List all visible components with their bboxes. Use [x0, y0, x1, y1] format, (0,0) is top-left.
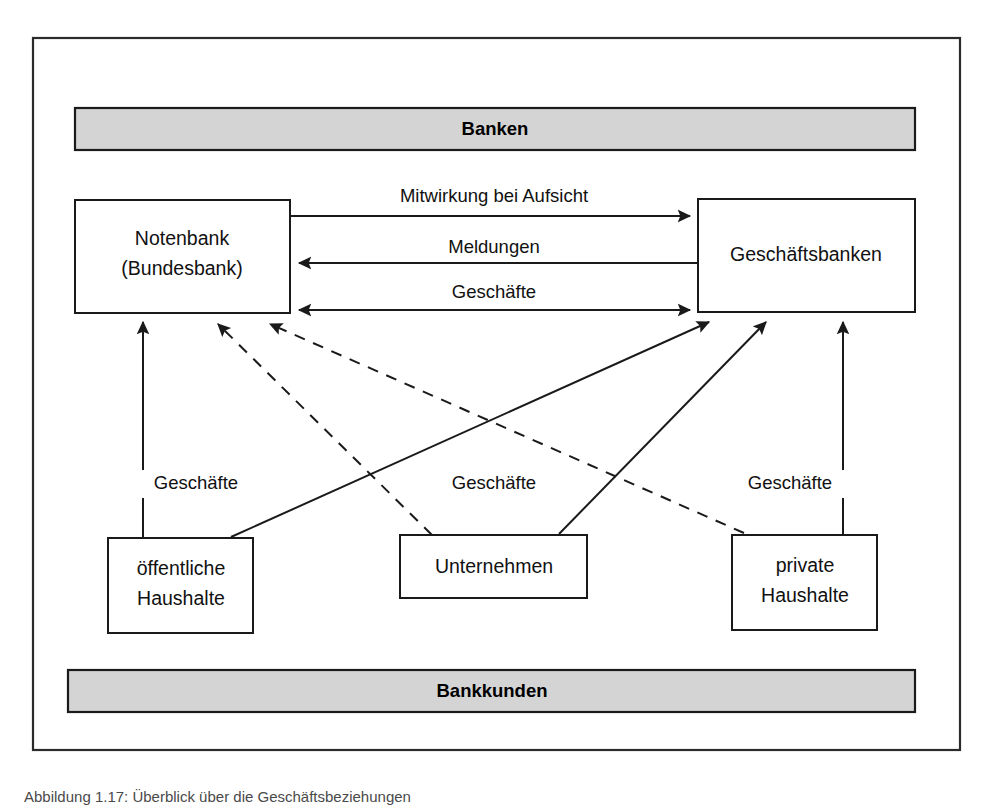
- band-bankkunden-label: Bankkunden: [436, 680, 547, 701]
- figure-caption: Abbildung 1.17: Überblick über die Gesch…: [24, 788, 411, 805]
- band-banken-label: Banken: [462, 118, 529, 139]
- edge-geschaefte-unternehmen-banken: [559, 322, 766, 534]
- edge-geschaefte-private-notenbank: [270, 324, 744, 533]
- node-unternehmen[interactable]: Unternehmen: [400, 535, 587, 598]
- node-oeffentliche-haushalte[interactable]: öffentliche Haushalte: [108, 538, 253, 633]
- node-private-haushalte-label-line1: private: [776, 554, 835, 576]
- business-relations-diagram: Banken Bankkunden Notenbank (Bundesbank)…: [0, 0, 985, 808]
- node-oeffentliche-haushalte-rect[interactable]: [108, 538, 253, 633]
- node-unternehmen-label: Unternehmen: [435, 555, 553, 577]
- node-oeffentliche-haushalte-label-line2: Haushalte: [137, 587, 225, 609]
- edge-geschaefte-unternehmen-notenbank: [218, 324, 432, 535]
- edge-label-geschaefte-oeffentliche: Geschäfte: [154, 472, 238, 493]
- node-oeffentliche-haushalte-label-line1: öffentliche: [137, 557, 226, 579]
- band-bankkunden: Bankkunden: [68, 670, 915, 712]
- node-geschaeftsbanken[interactable]: Geschäftsbanken: [698, 199, 915, 312]
- node-notenbank-label-line1: Notenbank: [135, 227, 230, 249]
- band-banken: Banken: [75, 108, 915, 150]
- node-notenbank-label-line2: (Bundesbank): [121, 257, 242, 279]
- edge-label-mitwirkung-bei-aufsicht: Mitwirkung bei Aufsicht: [400, 185, 588, 206]
- node-notenbank[interactable]: Notenbank (Bundesbank): [75, 200, 290, 313]
- edge-geschaefte-oeffentliche-banken: [231, 322, 709, 537]
- edge-label-geschaefte-unternehmen: Geschäfte: [452, 472, 536, 493]
- edge-label-geschaefte-private: Geschäfte: [748, 472, 832, 493]
- node-private-haushalte-label-line2: Haushalte: [761, 584, 849, 606]
- node-geschaeftsbanken-label: Geschäftsbanken: [730, 243, 882, 265]
- figure-root: Banken Bankkunden Notenbank (Bundesbank)…: [0, 0, 985, 808]
- node-private-haushalte-rect[interactable]: [732, 535, 877, 630]
- node-private-haushalte[interactable]: private Haushalte: [732, 535, 877, 630]
- edge-label-meldungen: Meldungen: [448, 236, 540, 257]
- edge-label-geschaefte-interbank: Geschäfte: [452, 281, 536, 302]
